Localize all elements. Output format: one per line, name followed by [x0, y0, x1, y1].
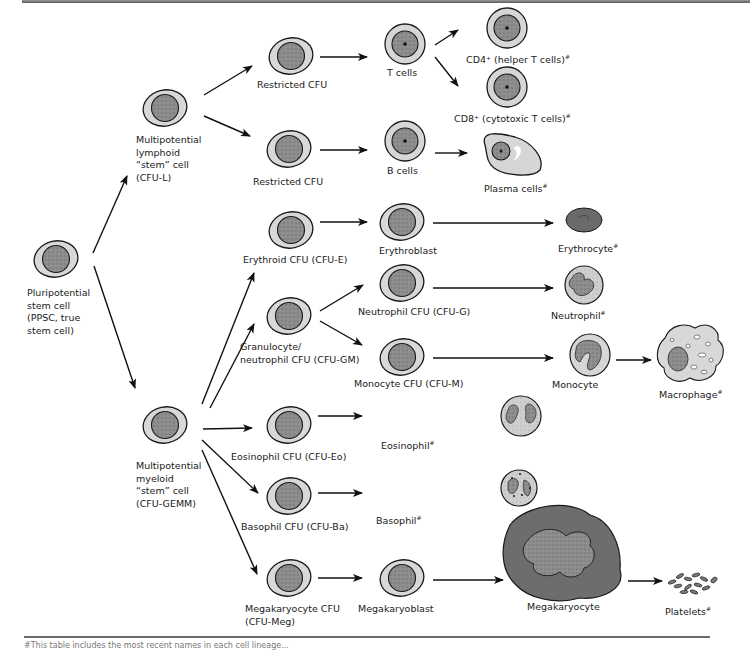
cfu-m-label: Monocyte CFU (CFU-M)	[354, 378, 463, 391]
cd4-label: CD4⁺ (helper T cells)#	[466, 51, 570, 67]
cfu-l-cell	[140, 86, 191, 130]
b-cell	[385, 121, 425, 161]
erythroblast-cell	[377, 200, 428, 244]
plasma-cell	[484, 134, 541, 175]
cfu-g-cell	[377, 261, 428, 305]
cfu-meg-label: Megakaryocyte CFU (CFU-Meg)	[245, 603, 340, 628]
erythroblast-label: Erythroblast	[379, 245, 437, 258]
cfu-ba-label: Basophil CFU (CFU-Ba)	[241, 521, 348, 534]
cfu-e-label: Erythroid CFU (CFU-E)	[243, 254, 347, 267]
restricted-cfu-b-cell	[264, 127, 315, 171]
cfu-m-cell	[377, 335, 428, 379]
neutrophil-label: Neutrophil#	[551, 307, 606, 323]
bottom-rule	[24, 636, 710, 638]
eosinophil-cell	[501, 396, 541, 436]
footnote: #This table includes the most recent nam…	[24, 641, 289, 650]
cfu-ba-cell	[264, 474, 315, 518]
basophil-cell	[501, 470, 537, 506]
monocyte-cell	[570, 334, 610, 376]
macrophage-label: Macrophage#	[659, 386, 723, 402]
cfu-e-cell	[266, 208, 317, 252]
neutrophil-cell	[565, 266, 603, 304]
plasma-label: Plasma cells#	[484, 180, 548, 196]
restricted-cfu-t-label: Restricted CFU	[257, 79, 327, 92]
megakaryoblast-label: Megakaryoblast	[358, 603, 434, 616]
cfu-g-label: Neutrophil CFU (CFU-G)	[358, 306, 470, 319]
eosinophil-label: Eosinophil#	[381, 437, 435, 453]
macrophage-cell	[657, 325, 723, 381]
megakaryocyte-cell	[503, 505, 621, 600]
restricted-cfu-t-cell	[266, 34, 317, 78]
cfu-eo-label: Eosinophil CFU (CFU-Eo)	[231, 451, 346, 464]
cfu-meg-cell	[264, 556, 315, 600]
cfu-gm-cell	[264, 294, 315, 338]
cfu-l-label: Multipotential lymphoid “stem” cell (CFU…	[136, 134, 201, 184]
restricted-cfu-b-label: Restricted CFU	[253, 176, 323, 189]
cfu-gemm-label: Multipotential myeloid “stem” cell (CFU-…	[136, 460, 201, 510]
platelets-cluster	[668, 572, 718, 594]
cfu-gemm-cell	[140, 403, 191, 447]
b-cells-label: B cells	[387, 165, 418, 178]
megakaryoblast-cell	[377, 556, 428, 600]
erythrocyte-cell	[566, 208, 602, 232]
ppsc-label: Pluripotential stem cell (PPSC, true ste…	[27, 287, 90, 337]
t-cells-label: T cells	[387, 67, 417, 80]
megakaryocyte-label: Megakaryocyte	[527, 601, 600, 614]
cd8-label: CD8⁺ (cytotoxic T cells)#	[454, 110, 571, 126]
ppsc-cell	[31, 237, 82, 281]
cd4-cell	[487, 8, 527, 48]
platelets-label: Platelets#	[665, 603, 711, 619]
cd8-cell	[487, 67, 527, 107]
cfu-gm-label: Granulocyte/ neutrophil CFU (CFU-GM)	[240, 341, 359, 366]
monocyte-label: Monocyte	[552, 379, 598, 392]
t-cell	[385, 24, 425, 64]
cfu-eo-cell	[264, 403, 315, 447]
basophil-label: Basophil#	[376, 512, 421, 528]
erythrocyte-label: Erythrocyte#	[558, 240, 618, 256]
